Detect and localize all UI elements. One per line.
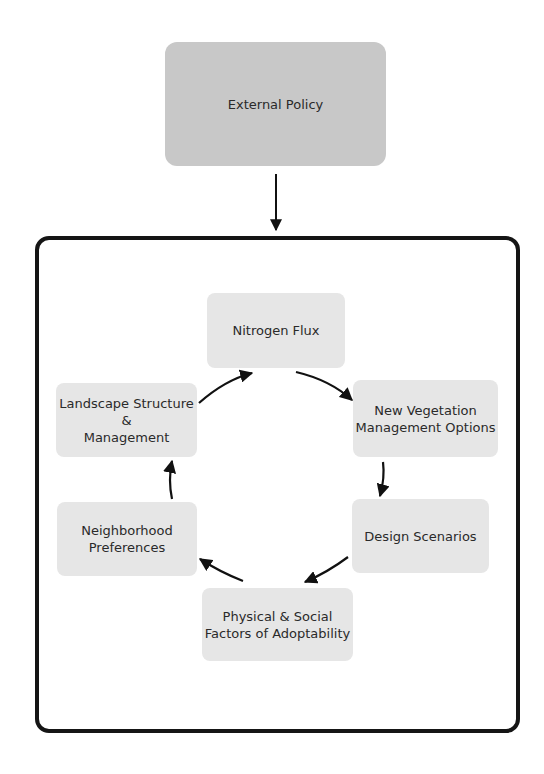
arrow-landscape-to-nitrogen [199,373,252,403]
arrow-neighborhood-to-landscape [170,461,172,499]
arrow-nitrogen-to-vegetation [296,372,352,400]
arrow-design-to-physical [305,557,348,582]
arrow-vegetation-to-design [380,462,384,496]
arrows-layer [0,0,544,774]
arrow-physical-to-neighborhood [200,559,243,581]
